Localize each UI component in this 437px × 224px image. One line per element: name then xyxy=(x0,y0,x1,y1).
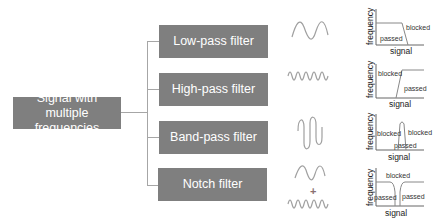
high-pass-response-chart: frequency blocked passed signal xyxy=(362,58,437,108)
x-axis-label: signal xyxy=(385,208,407,218)
high-pass-filter-label: High-pass filter xyxy=(172,82,255,97)
blocked-label: blocked xyxy=(406,24,430,31)
plus-icon: + xyxy=(310,186,316,196)
high-pass-filter-box: High-pass filter xyxy=(159,73,268,106)
notch-filter-box: Notch filter xyxy=(158,168,267,201)
band-pass-response-chart: frequency blocked blocked passed signal xyxy=(362,108,437,162)
blocked-left-label: blocked xyxy=(377,130,401,137)
notch-low-wave-icon xyxy=(293,160,327,184)
band-pass-filter-box: Band-pass filter xyxy=(159,121,268,154)
low-frequency-wave-icon xyxy=(290,15,330,45)
band-pass-filter-label: Band-pass filter xyxy=(170,130,257,145)
connector-source-trunk xyxy=(121,112,148,113)
y-axis-label: frequency xyxy=(365,7,375,45)
low-pass-filter-box: Low-pass filter xyxy=(159,25,268,58)
passed-left-label: passed xyxy=(374,194,397,202)
passed-label: passed xyxy=(380,35,403,43)
band-frequency-wave-icon xyxy=(296,113,326,153)
high-frequency-wave-icon xyxy=(287,68,331,84)
connector-vertical-trunk xyxy=(147,41,148,186)
connector-low-pass xyxy=(147,41,159,42)
connector-high-pass xyxy=(147,89,159,90)
x-axis-label: signal xyxy=(388,152,410,162)
notch-filter-label: Notch filter xyxy=(183,177,243,192)
blocked-label: blocked xyxy=(378,70,402,77)
source-signal-box: Signal with multiple frequencies xyxy=(13,97,121,129)
low-pass-filter-label: Low-pass filter xyxy=(173,34,254,49)
source-signal-label: Signal with multiple frequencies xyxy=(17,91,117,136)
notch-response-chart: frequency blocked passed passed signal xyxy=(362,162,437,220)
blocked-label: blocked xyxy=(386,172,410,179)
x-axis-label: signal xyxy=(390,46,412,56)
blocked-right-label: blocked xyxy=(408,129,432,136)
passed-label: passed xyxy=(404,85,427,93)
passed-right-label: passed xyxy=(402,193,425,201)
y-axis-label: frequency xyxy=(365,60,375,98)
connector-band-pass xyxy=(147,137,159,138)
low-pass-response-chart: frequency blocked passed signal xyxy=(362,3,437,55)
y-axis-label: frequency xyxy=(365,112,375,150)
passed-label: passed xyxy=(394,142,417,150)
notch-high-wave-icon xyxy=(287,196,331,212)
